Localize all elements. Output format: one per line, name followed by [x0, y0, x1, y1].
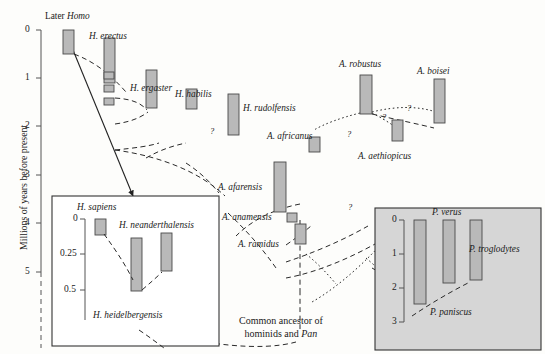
caption-line-2-genus: Pan: [301, 328, 317, 339]
pan-tick-2: 2: [392, 283, 397, 293]
bar-a-ramidus: [295, 224, 306, 244]
uncertainty-mark-3: ?: [382, 113, 386, 122]
bar-later-homo: [63, 30, 74, 54]
bar-frag-2: [104, 85, 114, 92]
bar-h-heidelbergensis: [131, 238, 142, 291]
bar-h-sapiens: [95, 219, 106, 235]
caption-line-2: hominids and Pan: [239, 328, 323, 341]
label-h-heidelbergensis: H. heidelbergensis: [93, 311, 162, 320]
label-a-africanus: A. africanus: [267, 132, 312, 141]
bar-h-rudolfensis: [228, 94, 239, 135]
pan-tick-1: 1: [392, 249, 397, 259]
label-a-aethiopicus: A. aethiopicus: [358, 152, 411, 161]
bar-p-verus: [443, 220, 455, 283]
uncertainty-mark-2: ?: [347, 130, 351, 139]
bar-a-robustus: [360, 75, 372, 114]
phylogeny-figure: 0 1 2 3 4 5 Millions of years before pre…: [0, 0, 545, 354]
bar-a-boisei: [434, 79, 445, 123]
homo-tick-0: 0: [73, 214, 78, 224]
caption-line-2-prefix: hominids and: [245, 328, 302, 339]
label-a-ramidus: A. ramidus: [238, 240, 279, 249]
caption-line-1: Common ancestor of: [239, 315, 323, 328]
figure-canvas: [0, 0, 545, 354]
bar-h-neanderthalensis: [161, 233, 172, 271]
label-p-paniscus: P. paniscus: [430, 308, 472, 317]
label-h-rudolfensis: H. rudolfensis: [243, 104, 296, 113]
y-tick-5: 5: [25, 267, 30, 277]
bar-a-afarensis: [274, 162, 286, 212]
y-axis-label: Millions of years before present: [18, 125, 29, 250]
later-homo-genus: Homo: [67, 11, 90, 21]
bar-a-anamensis: [287, 213, 297, 222]
label-h-sapiens: H. sapiens: [77, 203, 116, 212]
homo-tick-025: 0.25: [60, 249, 77, 259]
y-tick-1: 1: [25, 73, 30, 83]
bar-a-aethiopicus: [392, 120, 403, 141]
label-h-ergaster: H. ergaster: [130, 84, 172, 93]
label-a-boisei: A. boisei: [417, 67, 450, 76]
uncertainty-mark-1: ?: [210, 127, 214, 136]
label-h-neanderthalensis: H. neanderthalensis: [119, 221, 194, 230]
label-p-troglodytes: P. troglodytes: [469, 245, 520, 254]
label-later-homo: Later Homo: [45, 12, 90, 21]
bar-p-paniscus: [414, 220, 426, 304]
y-tick-0: 0: [25, 25, 30, 35]
label-p-verus: P. verus: [432, 208, 461, 217]
homo-tick-05: 0.5: [64, 285, 76, 295]
inset-pan-panel: [375, 208, 541, 350]
pan-tick-0: 0: [392, 215, 397, 225]
label-h-habilis: H. habilis: [175, 90, 212, 99]
label-h-erectus: H. erectus: [89, 32, 127, 41]
uncertainty-mark-5: ?: [348, 203, 352, 212]
label-a-afarensis: A. afarensis: [218, 183, 262, 192]
bar-frag-1: [104, 72, 114, 79]
uncertainty-mark-4: ?: [407, 104, 411, 113]
inset-pointer-arrow: [73, 50, 133, 196]
pan-tick-3: 3: [392, 317, 397, 327]
label-a-anamensis: A. anamensis: [222, 213, 272, 222]
common-ancestor-caption: Common ancestor of hominids and Pan: [239, 315, 323, 340]
main-y-axis: [36, 30, 41, 348]
later-homo-prefix: Later: [45, 11, 67, 21]
bar-frag-3: [104, 98, 114, 105]
label-a-robustus: A. robustus: [339, 60, 381, 69]
